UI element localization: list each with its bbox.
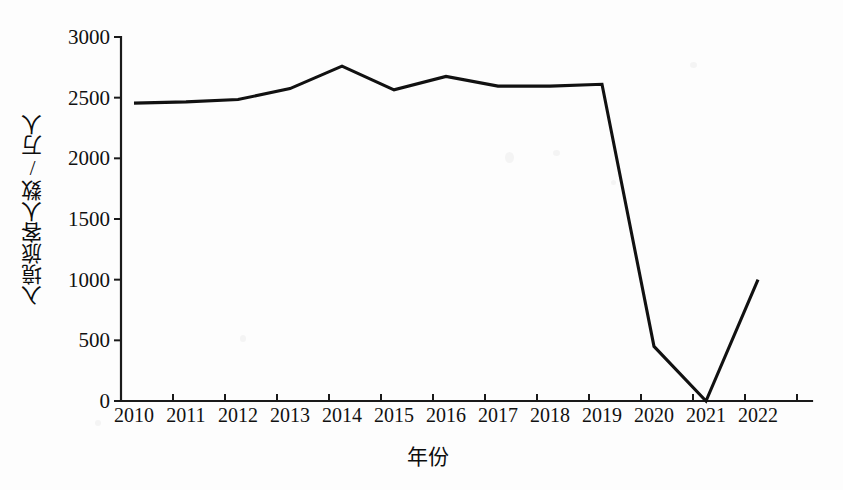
y-tick-label: 0: [100, 389, 111, 413]
y-tick-label: 1500: [68, 207, 110, 231]
x-tick-label: 2020: [634, 404, 674, 426]
y-tick-label: 500: [79, 328, 111, 352]
x-tick-label: 2010: [114, 404, 154, 426]
x-tick-label: 2015: [374, 404, 414, 426]
y-axis-ticks: 050010001500200025003000: [68, 25, 121, 413]
x-tick-label: 2016: [426, 404, 466, 426]
x-tick-label: 2014: [322, 404, 362, 426]
x-tick-label: 2021: [686, 404, 726, 426]
y-tick-label: 3000: [68, 25, 110, 49]
y-tick-label: 2500: [68, 86, 110, 110]
x-tick-label: 2022: [738, 404, 778, 426]
y-tick-label: 2000: [68, 146, 110, 170]
x-axis-ticks: 2010201120122013201420152016201720182019…: [114, 394, 797, 426]
x-tick-label: 2019: [582, 404, 622, 426]
data-series-line: [134, 66, 758, 401]
chart-plot-area: 050010001500200025003000 201020112012201…: [0, 0, 843, 490]
x-tick-label: 2012: [218, 404, 258, 426]
x-tick-label: 2011: [166, 404, 205, 426]
y-tick-label: 1000: [68, 268, 110, 292]
x-tick-label: 2017: [478, 404, 518, 426]
x-tick-label: 2018: [530, 404, 570, 426]
chart-figure: 入境旅客人数/万人 年份 050010001500200025003000 20…: [0, 0, 843, 490]
x-tick-label: 2013: [270, 404, 310, 426]
